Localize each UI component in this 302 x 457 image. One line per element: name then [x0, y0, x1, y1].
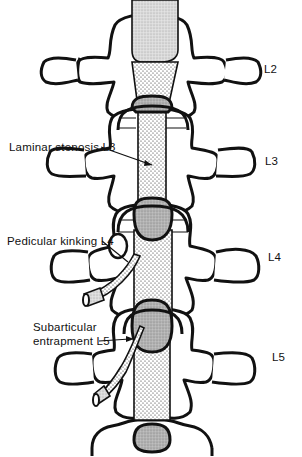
- lumbar-spine-diagram: [0, 0, 302, 457]
- vertebra-label-l4: L4: [268, 250, 281, 264]
- vertebra-label-l5: L5: [272, 350, 285, 364]
- annotation-subarticular-line1: Subarticular: [33, 320, 97, 334]
- vertebra-label-l2: L2: [264, 62, 277, 76]
- annotation-laminar-stenosis: Laminar stenosis L3: [9, 140, 116, 154]
- annotation-subarticular-line2: entrapment L5: [33, 334, 110, 348]
- vertebra-label-l3: L3: [265, 154, 278, 168]
- annotation-pedicular-kinking: Pedicular kinking L4: [7, 234, 114, 248]
